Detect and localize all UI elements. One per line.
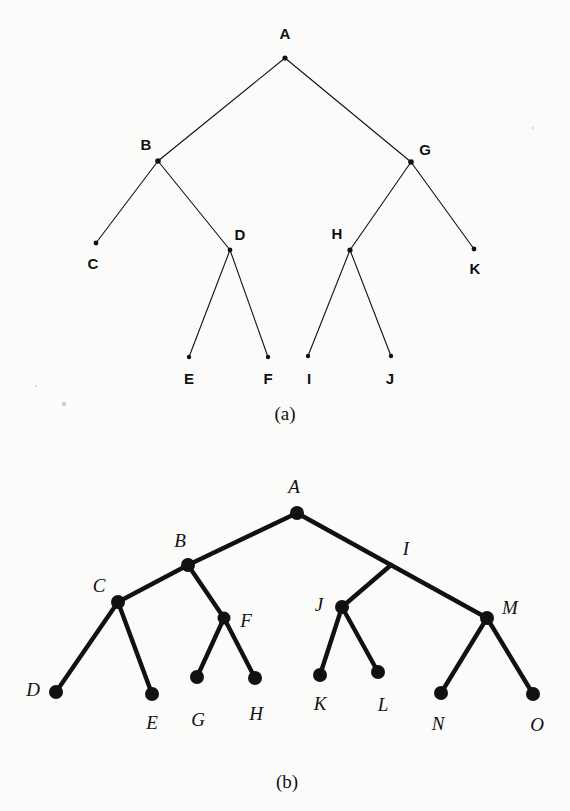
tree-node-label-M: M [502,598,518,617]
tree-edge-A-B [158,58,285,161]
tree-edge-C-E [118,602,152,694]
tree-edge-H-I [308,250,350,356]
tree-node-dot-F[interactable] [266,355,270,359]
figure-panel-b [0,440,570,811]
tree-node-dot-O[interactable] [526,687,540,701]
tree-node-dot-I[interactable] [306,354,310,358]
tree-node-dot-H[interactable] [347,247,352,252]
tree-node-dot-J[interactable] [335,600,349,614]
tree-node-dot-E[interactable] [145,687,159,701]
tree-node-dot-L[interactable] [371,665,385,679]
tree-node-label-J: J [315,595,323,614]
tree-node-label-D: D [26,680,40,699]
tree-node-label-G: G [419,142,431,157]
tree-node-label-C: C [93,576,106,595]
tree-node-dot-C[interactable] [111,595,125,609]
tree-edge-I-M [391,565,487,618]
tree-edge-M-O [487,618,533,694]
tree-node-dot-D[interactable] [228,248,233,253]
tree-edge-A-B [188,513,297,565]
caption-b: (b) [276,771,298,793]
tree-node-label-G: G [191,710,205,729]
tree-node-dot-G[interactable] [408,159,414,165]
tree-edge-J-K [320,607,342,675]
tree-edge-C-D [56,602,118,692]
tree-node-dot-B[interactable] [181,558,195,572]
tree-node-dot-F[interactable] [218,612,231,625]
tree-node-dot-B[interactable] [155,158,161,164]
figure-page: (a) (b) ABGCDHKEFIJABICFJMDEGHKLNO [0,0,570,811]
tree-node-dot-A[interactable] [290,506,304,520]
tree-edge-H-J [350,250,391,356]
tree-edge-A-I [297,513,391,565]
tree-edge-B-F [188,565,224,618]
tree-node-label-D: D [235,227,246,242]
tree-node-dot-M[interactable] [480,611,494,625]
tree-node-label-O: O [530,715,544,734]
tree-node-dot-N[interactable] [434,686,448,700]
tree-node-label-I: I [307,371,311,386]
tree-edge-D-E [189,250,230,357]
tree-edge-F-G [197,618,224,677]
tree-node-label-H: H [332,226,343,241]
tree-node-label-B: B [174,531,186,550]
tree-node-dot-J[interactable] [389,354,393,358]
tree-edge-G-K [411,162,474,249]
tree-edge-G-H [350,162,411,250]
tree-node-dot-C[interactable] [94,241,99,246]
tree-node-dot-G[interactable] [190,670,204,684]
tree-node-label-K: K [470,261,481,276]
tree-node-dot-H[interactable] [248,671,262,685]
tree-edge-A-G [285,58,411,162]
tree-edge-I-J [342,565,391,607]
tree-node-label-B: B [141,137,152,152]
tree-node-label-E: E [146,713,158,732]
tree-node-label-F: F [263,371,272,386]
tree-node-label-F: F [240,611,252,630]
tree-node-label-A: A [280,26,291,41]
tree-edge-B-C [96,161,158,243]
caption-a: (a) [274,403,295,425]
tree-node-label-L: L [378,695,389,714]
tree-graphic-b [0,440,570,811]
tree-node-label-C: C [88,256,99,271]
tree-node-label-A: A [288,477,300,496]
figure-panel-a [0,0,570,440]
tree-node-label-K: K [314,694,327,713]
tree-edge-B-D [158,161,230,250]
tree-node-dot-E[interactable] [187,355,191,359]
tree-graphic-a [0,0,570,440]
tree-node-label-I: I [403,539,409,558]
tree-node-dot-K[interactable] [472,247,477,252]
tree-node-label-N: N [432,714,445,733]
scan-speck [62,402,65,405]
tree-edge-J-L [342,607,378,672]
tree-node-label-J: J [386,371,394,386]
tree-edge-M-N [441,618,487,693]
tree-edge-D-F [230,250,268,357]
tree-node-label-E: E [184,371,194,386]
tree-node-label-H: H [249,704,263,723]
tree-node-dot-D[interactable] [49,685,63,699]
tree-node-dot-K[interactable] [313,668,327,682]
tree-node-dot-A[interactable] [282,55,287,60]
tree-edge-B-C [118,565,188,602]
